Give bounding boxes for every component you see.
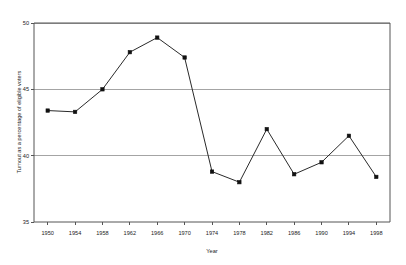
x-tick-label-1978: 1978 [233, 230, 245, 236]
x-tick-label-1986: 1986 [288, 230, 300, 236]
x-tick-label-1962: 1962 [124, 230, 136, 236]
x-tick-label-1950: 1950 [41, 230, 53, 236]
x-tick-label-1982: 1982 [261, 230, 273, 236]
data-point-1974 [210, 170, 213, 173]
data-point-1986 [292, 173, 295, 176]
x-tick-label-1954: 1954 [69, 230, 81, 236]
data-point-1950 [46, 109, 49, 112]
y-tick-label-35: 35 [23, 219, 29, 225]
x-tick-label-1974: 1974 [206, 230, 218, 236]
data-point-1998 [375, 175, 378, 178]
chart-container: 50454035 1950195419581962196619701974197… [0, 0, 406, 265]
data-point-1994 [347, 134, 350, 137]
x-axis-title: Year [206, 248, 217, 254]
data-point-1990 [320, 161, 323, 164]
data-point-1970 [183, 56, 186, 59]
x-tick-label-1958: 1958 [96, 230, 108, 236]
x-tick-label-1966: 1966 [151, 230, 163, 236]
x-tick-label-1998: 1998 [370, 230, 382, 236]
y-tick-label-40: 40 [23, 153, 29, 159]
data-point-1954 [73, 110, 76, 113]
line-chart: 50454035 1950195419581962196619701974197… [0, 0, 406, 265]
data-point-1982 [265, 127, 268, 130]
y-tick-label-50: 50 [23, 20, 29, 26]
x-tick-label-1990: 1990 [315, 230, 327, 236]
y-axis-title: Turnout as a percentage of eligible vote… [16, 70, 22, 173]
y-tick-label-45: 45 [23, 86, 29, 92]
data-point-1978 [238, 181, 241, 184]
x-tick-label-1994: 1994 [343, 230, 355, 236]
x-tick-label-1970: 1970 [178, 230, 190, 236]
data-point-1958 [101, 88, 104, 91]
data-point-1962 [128, 50, 131, 53]
data-point-1966 [156, 36, 159, 39]
